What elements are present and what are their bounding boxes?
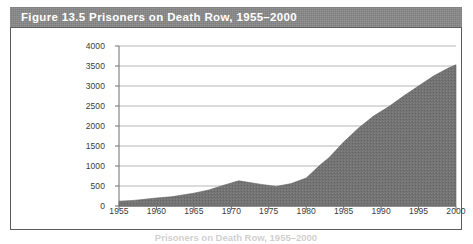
y-axis-tick-label: 2000 — [86, 121, 105, 131]
figure-title: Figure 13.5 Prisoners on Death Row, 1955… — [21, 11, 297, 23]
y-axis-tick-labels: 05001000150020002500300035004000 — [63, 28, 105, 231]
chart-area: 05001000150020002500300035004000 1955196… — [11, 28, 463, 231]
x-axis-tick-label: 1995 — [409, 206, 428, 216]
y-axis-tick-label: 2500 — [86, 101, 105, 111]
x-axis-tick-label: 1980 — [297, 206, 316, 216]
x-axis-tick-label: 1970 — [222, 206, 241, 216]
y-axis-tick-label: 500 — [91, 181, 105, 191]
figure-caption-strip: Prisoners on Death Row, 1955–2000 — [10, 233, 462, 244]
y-axis-tick-label: 4000 — [86, 41, 105, 51]
x-axis-tick-label: 1955 — [109, 206, 128, 216]
chart-frame: 05001000150020002500300035004000 1955196… — [10, 27, 462, 230]
x-axis-tick-label: 1960 — [147, 206, 166, 216]
y-axis-tick-label: 1000 — [86, 161, 105, 171]
x-axis-tick-label: 1975 — [259, 206, 278, 216]
x-axis-tick-label: 1985 — [334, 206, 353, 216]
y-axis-tick-label: 3500 — [86, 61, 105, 71]
x-axis-tick-label: 2000 — [446, 206, 465, 216]
figure-caption-partial: Prisoners on Death Row, 1955–2000 — [155, 233, 317, 243]
x-axis-tick-labels: 1955196019651970197519801985199019952000 — [11, 206, 463, 220]
figure-title-bar: Figure 13.5 Prisoners on Death Row, 1955… — [10, 7, 462, 27]
x-axis-tick-label: 1990 — [371, 206, 390, 216]
x-axis-tick-label: 1965 — [184, 206, 203, 216]
y-axis-tick-label: 1500 — [86, 141, 105, 151]
figure-container: Figure 13.5 Prisoners on Death Row, 1955… — [0, 0, 473, 244]
y-axis-tick-label: 3000 — [86, 81, 105, 91]
